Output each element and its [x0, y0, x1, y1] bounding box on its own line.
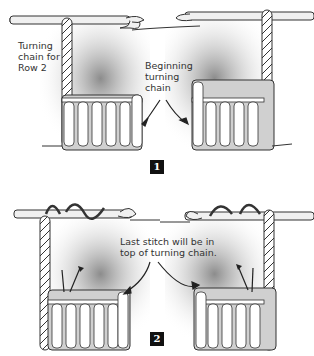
label-last-stitch: Last stitch will be in top of turning ch…: [120, 236, 220, 258]
label-beginning-turning-chain: Beginning turning chain: [145, 60, 197, 93]
step-badge-1: 1: [150, 160, 164, 174]
crochet-hook-right-icon: [176, 12, 314, 21]
step-badge-2: 2: [150, 332, 164, 346]
panel-2-illustration: [14, 204, 314, 350]
label-turning-chain-row-2: Turning chain for Row 2: [18, 40, 62, 73]
crochet-hook-right-2-icon: [160, 205, 314, 222]
crochet-hook-left-2-icon: [14, 204, 160, 220]
